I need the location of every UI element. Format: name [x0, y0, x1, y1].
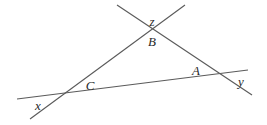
vertex-label-b: B — [148, 35, 156, 48]
vertex-label-a: A — [192, 64, 200, 77]
line-through-b-and-a — [117, 5, 252, 95]
line-through-c-and-b — [30, 5, 185, 119]
line-through-c-and-a — [17, 70, 248, 99]
angle-label-x: x — [35, 99, 41, 112]
vertex-label-c: C — [86, 79, 95, 92]
diagram-canvas: z B A y C x — [0, 0, 267, 125]
angle-label-y: y — [238, 75, 244, 88]
angle-label-z: z — [149, 15, 154, 28]
